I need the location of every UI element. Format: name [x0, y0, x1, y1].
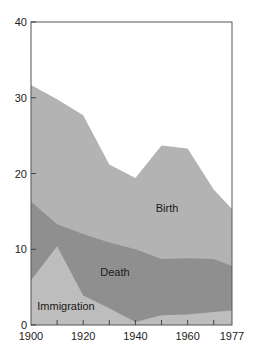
x-tick-label: 1977 — [220, 330, 244, 342]
stacked-area-chart: 01020304019001920194019601977 BirthDeath… — [0, 0, 254, 355]
x-tick-label: 1920 — [71, 330, 95, 342]
birth-label: Birth — [156, 202, 179, 214]
x-tick-label: 1900 — [19, 330, 43, 342]
y-tick-label: 40 — [15, 16, 27, 28]
x-tick-label: 1940 — [123, 330, 147, 342]
death-label: Death — [100, 266, 129, 278]
immigration-label: Immigration — [37, 300, 94, 312]
y-tick-label: 30 — [15, 92, 27, 104]
area-layers — [31, 85, 232, 325]
x-tick-label: 1960 — [175, 330, 199, 342]
y-tick-label: 10 — [15, 243, 27, 255]
y-tick-label: 20 — [15, 168, 27, 180]
